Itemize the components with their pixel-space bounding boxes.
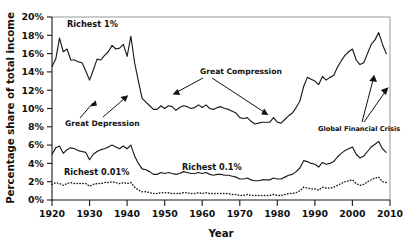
series-label-richest-1pct: Richest 1% <box>67 19 118 29</box>
y-tick-label-5: 10% <box>22 103 45 114</box>
x-tick-label-1930: 1930 <box>77 208 104 219</box>
x-tick-label-2010: 2010 <box>377 208 404 219</box>
y-axis-ticks <box>47 17 52 200</box>
annotation-great-depression: Great Depression <box>65 95 140 128</box>
y-tick-label-7: 14% <box>22 66 45 77</box>
income-share-line-chart: 0% 2% 4% 6% 8% 10% 12% 14% 16% 18% 20% 1… <box>0 0 407 247</box>
y-tick-label-10: 20% <box>22 11 45 22</box>
x-tick-label-1960: 1960 <box>189 208 216 219</box>
y-tick-label-4: 8% <box>28 121 45 132</box>
x-tick-label-1950: 1950 <box>152 208 179 219</box>
y-tick-label-3: 6% <box>28 139 45 150</box>
x-tick-label-1920: 1920 <box>39 208 66 219</box>
series-label-richest-001pct: Richest 0.01% <box>64 167 129 177</box>
y-tick-label-2: 4% <box>28 158 45 169</box>
x-axis-title: Year <box>207 228 233 239</box>
annotation-global-financial-crisis: Global Financial Crisis <box>318 75 400 133</box>
x-tick-label-1940: 1940 <box>114 208 141 219</box>
chart-figure: 0% 2% 4% 6% 8% 10% 12% 14% 16% 18% 20% 1… <box>0 0 407 247</box>
y-tick-label-8: 16% <box>22 48 45 59</box>
x-tick-label-1970: 1970 <box>227 208 254 219</box>
y-tick-label-9: 18% <box>22 30 45 41</box>
series-label-richest-01pct: Richest 0.1% <box>182 162 242 172</box>
x-tick-label-2000: 2000 <box>339 208 366 219</box>
annotation-label-great-depression: Great Depression <box>65 119 140 128</box>
annotation-label-great-compression: Great Compression <box>200 67 282 76</box>
series-line-richest-001pct <box>52 177 386 195</box>
y-tick-label-0: 0% <box>28 194 45 205</box>
x-tick-label-1990: 1990 <box>302 208 329 219</box>
x-axis-ticks <box>52 200 390 206</box>
x-tick-label-1980: 1980 <box>264 208 291 219</box>
y-tick-label-6: 12% <box>22 85 45 96</box>
y-axis-title: Percentage share of total income <box>5 12 16 204</box>
annotation-label-global-financial-crisis: Global Financial Crisis <box>318 125 400 133</box>
series-line-richest-1pct <box>52 33 386 124</box>
y-tick-label-1: 2% <box>28 176 45 187</box>
